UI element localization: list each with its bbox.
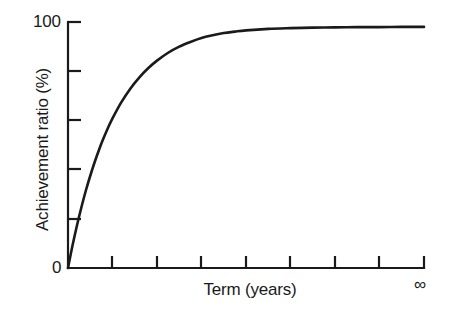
y-axis-title: Achievement ratio (%) bbox=[34, 45, 51, 255]
x-axis-title: Term (years) bbox=[170, 281, 330, 298]
y-axis-tick-label-0: 0 bbox=[52, 259, 61, 276]
chart-plot-area bbox=[0, 0, 455, 318]
x-axis-ticks bbox=[112, 256, 424, 268]
y-axis-ticks bbox=[68, 22, 81, 219]
x-axis-tick-label-infinity: ∞ bbox=[414, 276, 426, 293]
y-axis-tick-label-100: 100 bbox=[33, 13, 61, 30]
data-curve-achievement-ratio bbox=[68, 27, 424, 268]
chart-figure: Achievement ratio (%) Term (years) 100 0… bbox=[0, 0, 455, 318]
